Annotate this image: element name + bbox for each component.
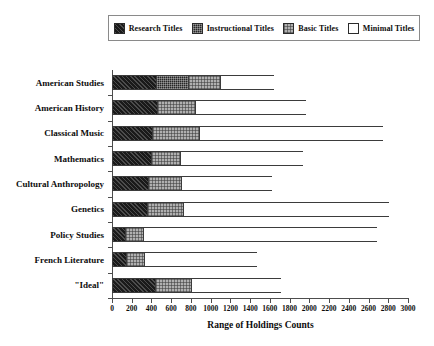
x-axis-tick (171, 299, 172, 303)
x-axis-tick-label: 3000 (401, 304, 416, 313)
x-axis-tick-label: 1800 (282, 304, 297, 313)
stacked-bar (112, 100, 306, 115)
x-axis-tick-label: 1000 (203, 304, 218, 313)
x-axis-label: Range of Holdings Counts (112, 320, 409, 330)
bar-segment-minimal (181, 177, 273, 190)
bar-segment-minimal (191, 279, 281, 292)
x-axis-tick (151, 299, 152, 303)
y-axis-tick-label: American History (35, 103, 104, 113)
stacked-bar (112, 126, 383, 141)
x-axis-tick-label: 400 (146, 304, 157, 313)
x-axis-tick (329, 299, 330, 303)
stacked-bar (112, 151, 303, 166)
x-axis-tick (112, 299, 113, 303)
bar-segment-research (113, 279, 156, 292)
legend-item: Instructional Titles (192, 23, 274, 34)
chart-row: Policy Studies (112, 222, 408, 247)
x-axis-tick (230, 299, 231, 303)
bar-segment-basic (147, 203, 184, 216)
bar-segment-basic (157, 101, 196, 114)
legend-swatch-basic (283, 23, 294, 34)
chart-row: French Literature (112, 247, 408, 272)
x-axis-tick (369, 299, 370, 303)
chart-row: Cultural Anthropology (112, 171, 408, 196)
x-axis-tick-label: 1200 (223, 304, 238, 313)
bar-segment-basic (151, 152, 181, 165)
bar-segment-research (113, 253, 127, 266)
bar-segment-basic (152, 127, 200, 140)
x-axis-tick (211, 299, 212, 303)
stacked-bar (112, 278, 281, 293)
chart-row: Classical Music (112, 121, 408, 146)
x-axis-tick (191, 299, 192, 303)
legend-item: Minimal Titles (348, 23, 415, 34)
bar-segment-instructional (156, 76, 189, 89)
y-axis-tick-label: Mathematics (54, 154, 104, 164)
x-axis-tick-label: 800 (185, 304, 196, 313)
chart-row: American Studies (112, 70, 408, 95)
legend-label: Instructional Titles (207, 24, 274, 33)
chart-legend: Research TitlesInstructional TitlesBasic… (108, 15, 420, 41)
y-axis-tick-label: American Studies (36, 78, 104, 88)
y-axis-tick-label: Classical Music (44, 128, 104, 138)
bar-segment-basic (148, 177, 183, 190)
y-axis-tick-label: "Ideal" (75, 280, 105, 290)
x-axis-tick (388, 299, 389, 303)
y-axis-tick-label: Genetics (71, 204, 104, 214)
x-axis-tick-label: 2600 (361, 304, 376, 313)
legend-label: Basic Titles (298, 24, 338, 33)
x-axis-tick-label: 2000 (302, 304, 317, 313)
stacked-bar (112, 176, 272, 191)
bar-segment-minimal (144, 253, 258, 266)
bar-segment-minimal (199, 127, 384, 140)
x-axis-tick-label: 1600 (262, 304, 277, 313)
legend-label: Research Titles (129, 24, 183, 33)
bar-segment-minimal (180, 152, 304, 165)
x-axis-tick (132, 299, 133, 303)
x-axis-tick (309, 299, 310, 303)
bar-segment-research (113, 76, 157, 89)
chart-row: American History (112, 95, 408, 120)
bar-segment-minimal (183, 203, 390, 216)
stacked-bar (112, 202, 389, 217)
x-axis-tick (250, 299, 251, 303)
x-axis-tick (290, 299, 291, 303)
bar-segment-basic (155, 279, 193, 292)
bar-segment-basic (125, 228, 144, 241)
chart-row: Mathematics (112, 146, 408, 171)
legend-swatch-minimal (348, 23, 359, 34)
legend-item: Research Titles (114, 23, 183, 34)
x-axis-tick-label: 0 (110, 304, 114, 313)
legend-item: Basic Titles (283, 23, 338, 34)
bar-segment-minimal (143, 228, 378, 241)
bar-segment-basic (188, 76, 221, 89)
x-axis-tick-label: 200 (126, 304, 137, 313)
x-axis-tick (270, 299, 271, 303)
bar-segment-basic (126, 253, 145, 266)
stacked-bar (112, 227, 377, 242)
y-axis-tick-label: Policy Studies (50, 230, 104, 240)
x-axis-tick (408, 299, 409, 303)
legend-label: Minimal Titles (363, 24, 415, 33)
legend-swatch-research (114, 23, 125, 34)
x-axis-tick-label: 2800 (381, 304, 396, 313)
x-axis-ticks: 0200400600800100012001400160018002000220… (112, 299, 409, 315)
bar-segment-research (113, 152, 152, 165)
y-axis-tick-label: French Literature (35, 255, 104, 265)
bar-segment-research (113, 203, 148, 216)
bar-segment-research (113, 177, 149, 190)
bar-segment-research (113, 101, 158, 114)
stacked-bar (112, 252, 257, 267)
stacked-bar (112, 75, 274, 90)
chart-row: Genetics (112, 197, 408, 222)
x-axis-tick-label: 2400 (341, 304, 356, 313)
legend-swatch-instructional (192, 23, 203, 34)
y-axis-tick-label: Cultural Anthropology (16, 179, 104, 189)
chart-row: "Ideal" (112, 273, 408, 298)
plot-area: American StudiesAmerican HistoryClassica… (112, 70, 408, 298)
x-axis-tick-label: 1400 (243, 304, 258, 313)
bar-segment-minimal (195, 101, 307, 114)
x-axis-tick-label: 2200 (322, 304, 337, 313)
x-axis-tick (349, 299, 350, 303)
bar-segment-research (113, 127, 153, 140)
